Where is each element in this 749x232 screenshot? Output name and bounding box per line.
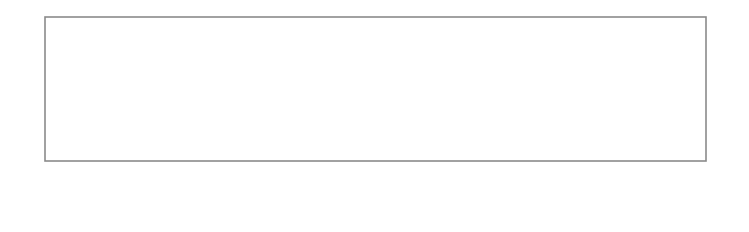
- pleat-diagram: [0, 0, 749, 232]
- fabric-panel: [45, 17, 706, 161]
